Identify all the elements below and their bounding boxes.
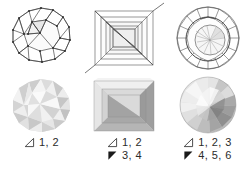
- caption-text: 1, 2, 3: [198, 136, 231, 148]
- caption-polyhedral-bead: 1, 2: [0, 134, 83, 175]
- round-brilliant-cut-wireframe-art: [166, 0, 249, 76]
- square-step-cut-wireframe-art: [83, 0, 166, 76]
- polyhedral-bead-wireframe-art: [0, 0, 83, 76]
- outline-triangle-icon: [24, 137, 35, 148]
- caption-line: 1, 2: [24, 136, 59, 148]
- caption-text: 1, 2: [39, 136, 59, 148]
- outline-triangle-icon: [107, 137, 118, 148]
- caption-text: 4, 5, 6: [198, 149, 231, 161]
- square-step-cut-shaded-art: [83, 76, 166, 134]
- filled-triangle-icon: [183, 150, 194, 161]
- caption-line: 1, 2: [107, 136, 142, 148]
- square-step-cut-wireframe: [83, 0, 166, 76]
- polyhedral-bead-shaded: [0, 76, 83, 134]
- caption-round-brilliant-cut: 1, 2, 3 4, 5, 6: [166, 134, 249, 175]
- gemstone-facet-figure: 1, 2 1, 2 3, 4: [0, 0, 249, 175]
- round-brilliant-cut-shaded-art: [166, 76, 249, 134]
- caption-line: 4, 5, 6: [183, 149, 231, 161]
- round-brilliant-cut-shaded: [166, 76, 249, 134]
- caption-line: 3, 4: [107, 149, 142, 161]
- polyhedral-bead-wireframe: [0, 0, 83, 76]
- outline-triangle-icon: [183, 137, 194, 148]
- square-step-cut-shaded: [83, 76, 166, 134]
- caption-text: 1, 2: [122, 136, 142, 148]
- caption-line: 1, 2, 3: [183, 136, 231, 148]
- caption-square-step-cut: 1, 2 3, 4: [83, 134, 166, 175]
- polyhedral-bead-shaded-art: [0, 76, 83, 134]
- filled-triangle-icon: [107, 150, 118, 161]
- round-brilliant-cut-wireframe: [166, 0, 249, 76]
- caption-text: 3, 4: [122, 149, 142, 161]
